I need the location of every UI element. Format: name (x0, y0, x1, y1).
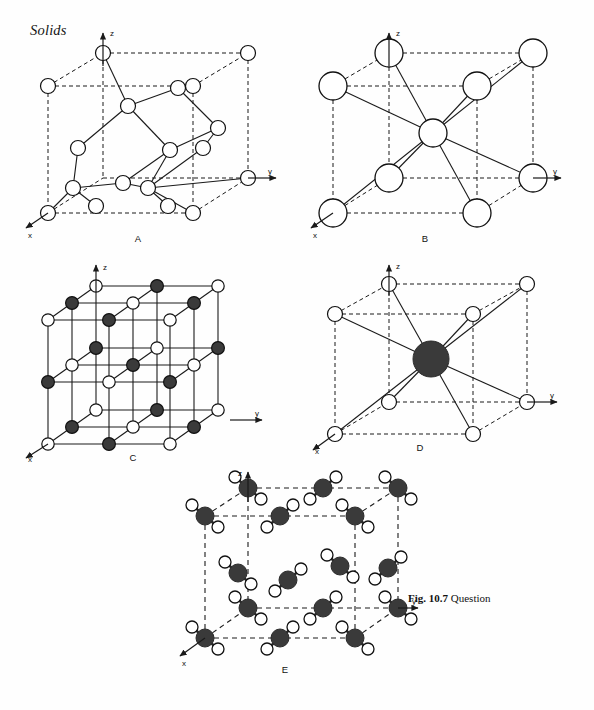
hydrogen-atom (379, 471, 391, 483)
axis-label-z-c: z (103, 263, 107, 272)
figure-caption-text: Question (448, 592, 490, 604)
hydrogen-atom (295, 563, 307, 575)
water-molecule (369, 551, 407, 585)
hydrogen-atom (212, 521, 224, 533)
axis-x-a (26, 213, 48, 228)
atom-filled (212, 342, 225, 355)
panel-label-b: B (415, 233, 435, 244)
atom-filled (66, 297, 79, 310)
panel-label-a: A (128, 233, 148, 244)
oxygen-atom (239, 599, 257, 617)
hydrogen-atom (336, 499, 348, 511)
hydrogen-atom (304, 613, 316, 625)
water-molecule (304, 591, 342, 625)
panel-e-svg: z y x (150, 468, 420, 683)
panel-a-diagram: z y x A (18, 28, 278, 238)
oxygen-atom (271, 507, 289, 525)
axis-label-x-b: x (313, 231, 317, 240)
atom-body-centre-b (419, 119, 447, 147)
axis-x-e (180, 638, 205, 656)
panel-label-e: E (275, 664, 295, 675)
atom-filled (66, 421, 79, 434)
atom-filled (90, 342, 103, 355)
atom-body-centre-d (413, 341, 449, 377)
panel-d-diagram: z y x D (305, 262, 565, 462)
atoms-open-b (319, 39, 547, 227)
atom-open (188, 359, 200, 371)
figure-caption: Fig. 10.7 Question (408, 592, 491, 604)
oxygen-atom (379, 559, 397, 577)
hydrogen-atom (261, 643, 273, 655)
oxygen-atom (196, 507, 214, 525)
panel-c-svg: z y x (18, 262, 278, 462)
panel-d-svg: z y x (305, 262, 565, 462)
axis-label-x-a: x (28, 231, 32, 240)
oxygen-atom (229, 564, 247, 582)
hydrogen-atom (186, 621, 198, 633)
atom-filled (188, 297, 201, 310)
atom-open (66, 359, 78, 371)
atom-open (90, 404, 102, 416)
panel-b-diagram: z y x B (305, 28, 565, 238)
water-molecule (269, 563, 307, 597)
hydrogen-atom (186, 499, 198, 511)
hydrogen-atom (287, 499, 299, 511)
hydrogen-atom (255, 613, 267, 625)
oxygen-atom (314, 599, 332, 617)
oxygen-atom (279, 571, 297, 589)
figure-number: Fig. 10.7 (408, 592, 448, 604)
hydrogen-atom (336, 621, 348, 633)
oxygen-atom (331, 557, 349, 575)
atom-open (212, 280, 224, 292)
water-molecule (321, 549, 359, 583)
water-molecule (304, 471, 342, 505)
atom-open (164, 438, 176, 450)
axis-label-y-d: y (550, 391, 554, 400)
water-molecule (261, 499, 299, 533)
hydrogen-atom (269, 585, 281, 597)
atom-filled (103, 438, 116, 451)
hydrogen-atom (212, 643, 224, 655)
hydrogen-atom (245, 578, 257, 590)
oxygen-atom (314, 479, 332, 497)
axis-label-x-c: x (28, 455, 32, 464)
axis-label-x-e: x (182, 659, 186, 668)
atom-filled (151, 404, 164, 417)
hydrogen-atom (261, 521, 273, 533)
water-molecule (261, 621, 299, 655)
hydrogen-atom (330, 471, 342, 483)
hydrogen-atom (369, 573, 381, 585)
oxygen-atom (389, 479, 407, 497)
figure-page: Solids (0, 0, 594, 710)
hydrogen-atom (405, 493, 417, 505)
oxygen-atom (346, 507, 364, 525)
hydrogen-atom (405, 613, 417, 625)
axis-label-z-b: z (396, 29, 400, 38)
atom-filled (164, 376, 177, 389)
axis-label-y-b: y (553, 167, 557, 176)
panel-b-svg: z y x (305, 28, 565, 238)
atoms-c (42, 280, 225, 451)
axis-label-z-d: z (396, 262, 400, 271)
hydrogen-atom (330, 591, 342, 603)
hydrogen-atom (287, 621, 299, 633)
water-molecule (219, 556, 257, 590)
hydrogen-atom (229, 591, 241, 603)
atom-filled (151, 280, 164, 293)
atom-open (164, 314, 176, 326)
atom-filled (42, 376, 55, 389)
hydrogen-atom (304, 493, 316, 505)
hydrogen-atom (255, 493, 267, 505)
panel-e-diagram: z y x E (150, 468, 420, 683)
oxygen-atom (271, 629, 289, 647)
atom-open (42, 314, 54, 326)
axis-label-x-d: x (315, 447, 319, 456)
atom-open (151, 342, 163, 354)
hydrogen-atom (347, 571, 359, 583)
axis-label-y-c: y (255, 409, 259, 418)
axis-label-z-e: z (238, 469, 242, 478)
atom-filled (127, 359, 140, 372)
panel-a-svg: z y x (18, 28, 278, 238)
panel-label-d: D (410, 442, 430, 453)
axis-label-y-a: y (268, 167, 272, 176)
